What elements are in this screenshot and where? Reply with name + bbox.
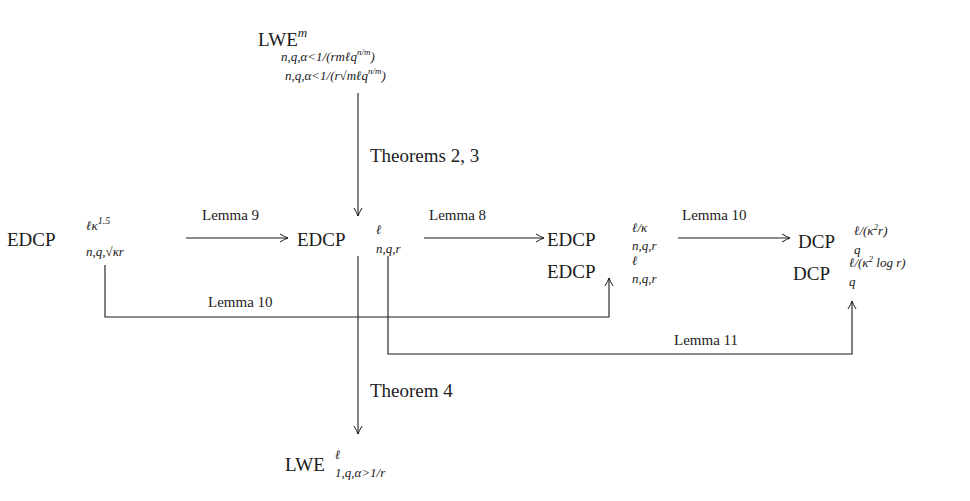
sub2-text: n,q,α<1/(r√mℓq <box>285 68 368 83</box>
sub1-text: n,q,α<1/(rmℓq <box>281 49 357 64</box>
sup-text: ℓ <box>335 447 340 462</box>
node-edcp-right-bottom-sup: ℓ <box>632 254 637 267</box>
node-edcp-left-sup: ℓκ1.5 <box>86 219 110 232</box>
node-edcp-right-bottom-base: EDCP <box>547 261 596 282</box>
sub-text: q <box>849 274 856 289</box>
sup-exp: 1.5 <box>98 215 111 226</box>
sub-text: 1,q,α>1/r <box>335 465 385 480</box>
sub1-close: ) <box>370 49 374 64</box>
node-lwe-m-sub2: n,q,α<1/(r√mℓqn/m) <box>285 69 386 82</box>
node-edcp-right-bottom-sub: n,q,r <box>632 272 657 285</box>
sup-text: ℓ <box>376 222 381 237</box>
sub2-close: ) <box>382 68 386 83</box>
node-lwe-l-sub: 1,q,α>1/r <box>335 466 385 479</box>
sup-text: ℓ/(κ <box>849 255 869 270</box>
node-edcp-center: EDCP <box>297 230 346 249</box>
sup-exp: 2 <box>869 254 874 264</box>
sup-close: log r) <box>873 255 906 270</box>
sup-exp: 2 <box>874 222 879 232</box>
node-dcp-bottom: DCP <box>793 264 830 283</box>
node-edcp-right-top-sub: n,q,r <box>632 239 657 252</box>
node-edcp-right-top-sup: ℓ/κ <box>632 221 647 234</box>
sup-text: ℓκ <box>86 218 98 233</box>
sub-text: n,q,r <box>632 271 657 286</box>
sup-close: r) <box>878 223 887 238</box>
node-lwe-l-base: LWE <box>285 454 325 475</box>
node-dcp-top-sup: ℓ/(κ2r) <box>854 224 888 237</box>
label-theorems-2-3: Theorems 2, 3 <box>370 145 479 167</box>
sub-text: n,q,r <box>632 238 657 253</box>
sub-text: n,q,√κr <box>86 244 124 259</box>
label-lemma-11: Lemma 11 <box>674 332 738 349</box>
label-lemma-10-top: Lemma 10 <box>682 207 747 224</box>
arrow-lemma-10-bottom <box>105 265 609 317</box>
node-lwe-m-base: LWE <box>258 29 298 50</box>
sup-text: ℓ/(κ <box>854 223 874 238</box>
sup-text: ℓ/κ <box>632 220 647 235</box>
node-dcp-bottom-base: DCP <box>793 263 830 284</box>
node-edcp-center-base: EDCP <box>297 229 346 250</box>
node-edcp-right-bottom: EDCP <box>547 262 596 281</box>
node-lwe-l: LWE <box>285 455 325 474</box>
node-dcp-top: DCP <box>798 232 835 251</box>
node-edcp-left: EDCP <box>7 230 56 249</box>
node-edcp-center-sup: ℓ <box>376 223 381 236</box>
arrow-lemma-11 <box>388 256 852 354</box>
label-lemma-9: Lemma 9 <box>202 207 259 224</box>
sup-text: ℓ <box>632 253 637 268</box>
node-edcp-center-sub: n,q,r <box>376 242 401 255</box>
node-edcp-right-top-base: EDCP <box>547 229 596 250</box>
label-lemma-8: Lemma 8 <box>429 207 486 224</box>
sub1-exp: n/m <box>357 47 371 57</box>
node-edcp-left-sub: n,q,√κr <box>86 245 124 258</box>
node-lwe-m: LWEm <box>258 30 307 49</box>
node-dcp-bottom-sub: q <box>849 275 856 288</box>
node-lwe-l-sup: ℓ <box>335 448 340 461</box>
sub2-exp: n/m <box>368 66 382 76</box>
node-dcp-bottom-sup: ℓ/(κ2 log r) <box>849 256 906 269</box>
node-edcp-right-top: EDCP <box>547 230 596 249</box>
node-lwe-m-sub1: n,q,α<1/(rmℓqn/m) <box>281 50 375 63</box>
label-lemma-10-bottom: Lemma 10 <box>208 294 273 311</box>
node-dcp-top-base: DCP <box>798 231 835 252</box>
node-lwe-m-sup: m <box>298 25 307 40</box>
node-edcp-left-base: EDCP <box>7 229 56 250</box>
label-theorem-4: Theorem 4 <box>370 380 453 402</box>
sub-text: n,q,r <box>376 241 401 256</box>
